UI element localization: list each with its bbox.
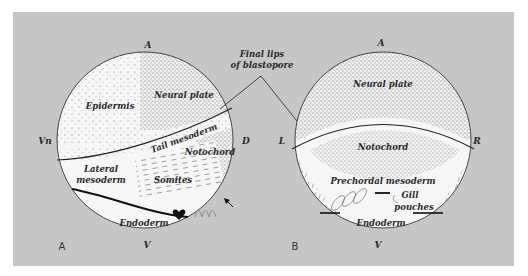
label-endoderm-a: Endoderm [118,218,168,228]
pharynx-loops [195,210,216,217]
label-notochord-a: Notochord [184,147,236,157]
label-lateral-1: Lateral [83,164,119,174]
label-somites: Somites [154,175,192,185]
label-gill-2: pouches [394,202,434,212]
label-lateral-2: mesoderm [76,175,126,185]
embryo-diagram: A V Vn D Epidermis Neural plate Tail mes… [0,0,528,276]
panel-b-axis-right: R [472,136,481,146]
panel-label-a: A [59,241,66,252]
label-notochord-b: Notochord [357,142,409,152]
label-epidermis: Epidermis [85,101,135,111]
panel-b-axis-bottom: V [375,240,383,250]
label-gill-1: Gill [402,190,420,200]
annotation-line-2: of blastopore [231,60,294,70]
label-prechordal-mesoderm: Prechordal mesoderm [329,176,435,186]
blastopore-annotation: Final lips of blastopore [220,49,297,121]
label-neural-plate: Neural plate [153,90,214,100]
annotation-leader-lines [220,76,297,121]
panel-b-axis-left: L [278,136,285,146]
panel-a-embryo [55,50,240,240]
panel-a-axis-left: Vn [38,136,52,146]
panel-a-axis-top: A [144,40,152,50]
panel-b-axis-top: A [377,38,385,48]
panel-label-b: B [292,241,299,252]
annotation-line-1: Final lips [239,49,285,59]
label-neural-plate-b: Neural plate [352,79,413,89]
arrow-icon [224,198,233,207]
panel-a-axis-bottom: V [144,240,152,250]
label-endoderm-b: Endoderm [355,218,405,228]
panel-a-axis-right: D [241,136,250,146]
